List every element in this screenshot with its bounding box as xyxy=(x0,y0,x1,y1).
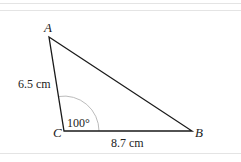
side-label-cb: 8.7 cm xyxy=(111,136,144,150)
vertex-label-a: A xyxy=(43,20,52,35)
side-label-ac: 6.5 cm xyxy=(18,77,51,91)
triangle-diagram: A C B 6.5 cm 8.7 cm 100° xyxy=(0,0,241,162)
angle-label-c: 100° xyxy=(67,116,90,130)
vertex-label-c: C xyxy=(53,125,62,140)
vertex-label-b: B xyxy=(195,125,203,140)
